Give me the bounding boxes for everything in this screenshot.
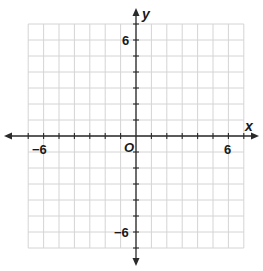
y-tick-label-6: 6: [122, 34, 129, 47]
x-axis-label: x: [245, 119, 253, 133]
origin-label: O: [124, 141, 134, 154]
coordinate-plane: [0, 0, 263, 271]
y-tick-label-neg6: −6: [114, 226, 129, 239]
axes: [4, 8, 259, 266]
y-axis-label: y: [142, 7, 150, 21]
x-tick-label-6: 6: [224, 143, 231, 156]
x-tick-label-neg6: −6: [32, 143, 47, 156]
